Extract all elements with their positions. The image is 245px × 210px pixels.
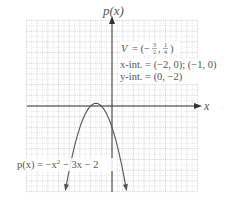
vertex-frac2-den: 4 xyxy=(164,49,167,55)
vertex-frac1-den: 2 xyxy=(153,49,156,55)
vertex-prefix: V = (− xyxy=(121,43,150,55)
x-intercepts-annotation: x-int. = (−2, 0); (−1, 0) xyxy=(120,59,217,71)
curve-arrow-right-icon xyxy=(123,184,128,191)
x-axis-label: x xyxy=(203,99,210,113)
vertex-annotation: V = (− 3 2 , 1 4 ) xyxy=(120,41,180,55)
vertex-frac1-num: 3 xyxy=(153,42,156,48)
y-intercept-annotation: y-int. = (0, −2) xyxy=(120,71,183,83)
curve-arrow-left-icon xyxy=(64,184,69,191)
vertex-close: ) xyxy=(170,43,174,55)
vertex-sep: , xyxy=(158,43,161,54)
y-axis-label: p(x) xyxy=(102,3,124,18)
graph-canvas: p(x) x V = (− 3 2 , 1 4 ) x-int. = (−2, … xyxy=(0,0,245,210)
x-axis-arrow-icon xyxy=(194,103,202,109)
vertex-frac2-num: 1 xyxy=(164,42,167,48)
